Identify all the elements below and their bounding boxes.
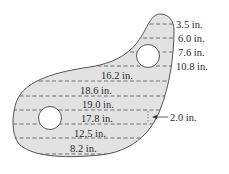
width-label-6-0: 6.0 in. (178, 33, 205, 44)
hole-lower-left (39, 107, 62, 130)
spacing-label: 2.0 in. (170, 112, 197, 123)
width-label-19-0: 19.0 in. (82, 99, 114, 110)
width-label-12-5: 12.5 in. (74, 128, 106, 139)
width-label-16-2: 16.2 in. (101, 70, 133, 81)
width-label-17-8: 17.8 in. (81, 113, 113, 124)
width-label-10-8: 10.8 in. (176, 61, 208, 72)
width-label-7-6: 7.6 in. (178, 47, 205, 58)
width-label-18-6: 18.6 in. (80, 85, 112, 96)
hole-upper-right (137, 45, 160, 68)
area-diagram: 3.5 in. 6.0 in. 7.6 in. 10.8 in. 16.2 in… (0, 0, 229, 174)
width-label-3-5: 3.5 in. (176, 19, 203, 30)
width-label-8-2: 8.2 in. (70, 143, 97, 154)
right-labels: 3.5 in. 6.0 in. 7.6 in. 10.8 in. (176, 19, 208, 72)
